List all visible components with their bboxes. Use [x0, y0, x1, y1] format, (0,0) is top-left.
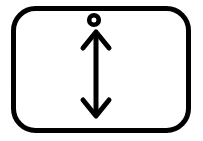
vertical-double-arrow-with-dot-icon	[0, 0, 203, 141]
icon-canvas: Vertical double-headed arrow with dot in…	[0, 0, 203, 141]
